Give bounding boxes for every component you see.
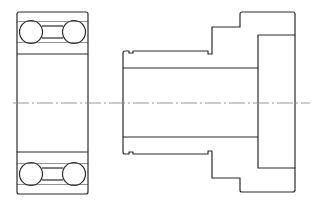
inner-ring-bottom — [17, 152, 88, 164]
bearing-bottom-section — [17, 152, 88, 194]
bearing-top-section — [17, 12, 88, 54]
stepped-sleeve — [123, 12, 295, 192]
technical-drawing: Bearing and stepped shaft sleeve — secti… — [0, 0, 316, 208]
inner-ring-top — [17, 42, 88, 54]
sleeve-lower-section — [123, 137, 295, 192]
sleeve-upper-section — [123, 12, 295, 68]
